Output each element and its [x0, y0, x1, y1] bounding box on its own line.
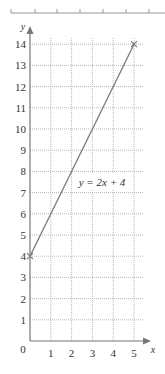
x-tick-label: 5	[131, 347, 137, 359]
y-axis-label: y	[20, 21, 26, 32]
origin-label: 0	[20, 343, 26, 355]
x-tick-label: 1	[48, 347, 54, 359]
y-tick-label: 8	[21, 165, 27, 177]
y-tick-label: 3	[21, 271, 27, 283]
y-tick-label: 13	[15, 59, 27, 71]
y-tick-label: 2	[21, 293, 27, 305]
y-tick-label: 14	[15, 38, 27, 50]
equation-text: y = 2x + 4	[78, 176, 126, 188]
y-tick-label: 1	[21, 314, 27, 326]
x-axis-label: x	[150, 344, 156, 355]
y-tick-label: 11	[15, 102, 26, 114]
x-tick-label: 2	[69, 347, 75, 359]
y-tick-label: 5	[21, 229, 27, 241]
x-tick-label: 3	[90, 347, 96, 359]
y-tick-label: 7	[21, 187, 27, 199]
x-tick-label: 4	[110, 347, 116, 359]
y-tick-label: 10	[15, 123, 27, 135]
y-tick-label: 12	[15, 81, 26, 93]
y-tick-label: 6	[21, 208, 27, 220]
line-chart: 1234512345678910111213140xy y = 2x + 4	[0, 0, 165, 374]
equation-label: y = 2x + 4	[74, 174, 130, 190]
y-tick-label: 4	[21, 250, 27, 262]
y-tick-label: 9	[21, 144, 27, 156]
y-axis-arrow-icon	[27, 26, 34, 34]
